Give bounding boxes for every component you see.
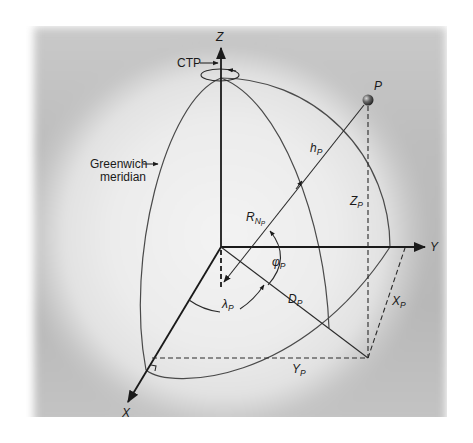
point-p-label: P bbox=[374, 79, 382, 93]
y-axis-label: Y bbox=[430, 240, 439, 254]
z-axis-label: Z bbox=[215, 30, 224, 44]
ellipsoid-normal-line bbox=[224, 105, 364, 282]
greenwich-meridian-curve bbox=[140, 78, 221, 370]
ctp-rotation-arrow-icon bbox=[228, 70, 236, 72]
height-label: hP bbox=[310, 141, 323, 157]
greenwich-label-line2: meridian bbox=[100, 170, 146, 184]
distance-label: DP bbox=[288, 292, 303, 308]
ctp-label: CTP bbox=[177, 56, 201, 70]
p-meridian-curve bbox=[221, 78, 329, 328]
radius-normal-label: RNP bbox=[246, 210, 266, 227]
longitude-label: λP bbox=[221, 297, 234, 313]
greenwich-label-line1: Greenwich bbox=[90, 157, 147, 171]
equator-curve bbox=[146, 247, 390, 379]
x-coord-label: XP bbox=[391, 294, 406, 310]
x-axis-label: X bbox=[121, 406, 131, 420]
longitude-arc-right bbox=[240, 285, 264, 309]
ecef-diagram: Z Y X CTP Greenwich meridian P hP ZP RNP… bbox=[0, 0, 473, 443]
longitude-arc-left bbox=[189, 300, 220, 312]
latitude-label: φP bbox=[272, 255, 286, 271]
y-coord-label: YP bbox=[292, 362, 306, 378]
right-angle-mark bbox=[151, 365, 156, 371]
point-p-marker bbox=[363, 95, 374, 106]
z-coord-label: ZP bbox=[349, 194, 363, 210]
